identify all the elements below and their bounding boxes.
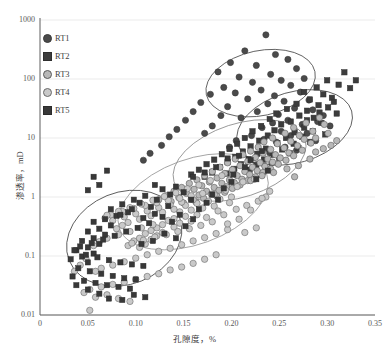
x-tick-label: 0 bbox=[20, 319, 60, 328]
y-tick-label: 10 bbox=[0, 133, 35, 142]
data-point bbox=[290, 153, 296, 159]
data-point bbox=[253, 62, 259, 68]
data-point bbox=[321, 121, 327, 127]
data-point bbox=[285, 56, 291, 62]
data-point bbox=[135, 225, 140, 230]
x-tick-label: 0.20 bbox=[211, 319, 251, 328]
data-point bbox=[182, 213, 188, 219]
data-point bbox=[129, 207, 134, 212]
data-point bbox=[347, 85, 352, 90]
data-point bbox=[173, 236, 178, 241]
data-point bbox=[91, 236, 96, 241]
data-point bbox=[91, 174, 96, 179]
data-point bbox=[104, 168, 109, 173]
data-point bbox=[303, 120, 309, 126]
data-point bbox=[158, 142, 164, 148]
x-tick-label: 0.35 bbox=[355, 319, 389, 328]
data-point bbox=[325, 105, 330, 110]
data-point bbox=[203, 214, 209, 220]
data-point bbox=[274, 111, 279, 116]
x-tick-label: 0.10 bbox=[116, 319, 156, 328]
x-tick-label: 0.05 bbox=[68, 319, 108, 328]
data-point bbox=[133, 277, 138, 282]
data-point bbox=[213, 230, 219, 236]
data-point bbox=[91, 219, 96, 224]
data-point bbox=[238, 115, 244, 121]
data-point bbox=[204, 161, 209, 166]
data-point bbox=[101, 237, 106, 242]
circle-marker-icon bbox=[43, 70, 52, 79]
data-point bbox=[240, 179, 246, 185]
y-tick-label: 100 bbox=[0, 74, 35, 83]
data-point bbox=[173, 190, 179, 196]
data-point bbox=[177, 212, 182, 217]
data-point bbox=[97, 226, 102, 231]
data-point bbox=[311, 115, 316, 120]
data-point bbox=[242, 135, 247, 140]
data-point bbox=[188, 207, 194, 213]
data-point bbox=[268, 71, 274, 77]
data-point bbox=[314, 85, 319, 90]
data-point bbox=[78, 244, 83, 249]
data-point bbox=[118, 260, 123, 265]
data-point bbox=[97, 291, 102, 296]
data-point bbox=[301, 89, 306, 94]
y-tick-label: 1000 bbox=[0, 15, 35, 24]
data-point bbox=[221, 212, 227, 218]
data-point bbox=[265, 101, 271, 107]
data-point bbox=[272, 128, 277, 133]
legend-item-rt4[interactable]: RT4 bbox=[43, 83, 70, 101]
data-point bbox=[215, 197, 220, 202]
data-point bbox=[245, 96, 251, 102]
data-point bbox=[247, 148, 253, 154]
data-point bbox=[104, 283, 109, 288]
data-point bbox=[133, 255, 139, 261]
data-point bbox=[288, 138, 294, 144]
data-point bbox=[112, 233, 117, 238]
data-point bbox=[207, 177, 213, 183]
legend-item-label: RT5 bbox=[55, 106, 70, 115]
data-point bbox=[70, 274, 75, 279]
data-point bbox=[85, 229, 90, 234]
circle-marker-icon bbox=[43, 88, 52, 97]
legend-item-rt1[interactable]: RT1 bbox=[43, 29, 70, 47]
data-point bbox=[267, 188, 273, 194]
data-point bbox=[190, 109, 196, 115]
data-point bbox=[125, 219, 131, 225]
data-point bbox=[102, 217, 107, 222]
data-point bbox=[297, 113, 302, 118]
data-point bbox=[295, 162, 301, 168]
data-point bbox=[127, 298, 133, 304]
data-point bbox=[214, 165, 219, 170]
data-point bbox=[267, 116, 272, 121]
legend-item-rt2[interactable]: RT2 bbox=[43, 47, 70, 65]
data-point bbox=[118, 212, 123, 217]
legend-item-rt5[interactable]: RT5 bbox=[43, 101, 70, 119]
data-point bbox=[331, 99, 336, 104]
data-point bbox=[219, 152, 224, 157]
data-point bbox=[227, 146, 232, 151]
data-point bbox=[263, 32, 269, 38]
data-point bbox=[236, 153, 241, 158]
data-point bbox=[159, 221, 165, 227]
legend-item-rt3[interactable]: RT3 bbox=[43, 65, 70, 83]
data-point bbox=[242, 165, 247, 170]
data-point bbox=[110, 273, 115, 278]
data-point bbox=[307, 97, 312, 102]
data-point bbox=[143, 295, 148, 300]
data-point bbox=[201, 234, 207, 240]
data-point bbox=[155, 271, 161, 277]
data-point bbox=[85, 287, 90, 292]
data-point bbox=[196, 167, 201, 172]
y-tick-label: 1 bbox=[0, 192, 35, 201]
data-point bbox=[93, 280, 98, 285]
legend-item-label: RT1 bbox=[55, 34, 70, 43]
data-point bbox=[68, 257, 73, 262]
data-point bbox=[144, 273, 150, 279]
data-point bbox=[129, 240, 135, 246]
data-point bbox=[265, 168, 270, 173]
data-point bbox=[221, 186, 226, 191]
data-point bbox=[328, 142, 334, 148]
data-point bbox=[290, 124, 296, 130]
data-point bbox=[204, 200, 209, 205]
